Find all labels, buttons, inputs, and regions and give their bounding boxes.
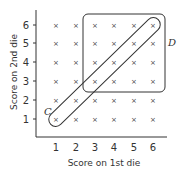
outcome-point-marker: × (73, 40, 79, 48)
outcome-point-marker: × (131, 97, 137, 105)
x-tick-label: 2 (73, 142, 79, 153)
x-tick-label: 6 (150, 142, 156, 153)
outcome-point-marker: × (53, 40, 59, 48)
outcome-point-marker: × (131, 22, 137, 30)
outcome-point-marker: × (131, 116, 137, 124)
outcome-point-marker: × (73, 22, 79, 30)
outcome-point-marker: × (111, 97, 117, 105)
outcome-point-marker: × (111, 59, 117, 67)
outcome-point-marker: × (53, 59, 59, 67)
y-tick-label: 6 (23, 20, 29, 31)
region-d-label: D (167, 37, 176, 48)
outcome-point-marker: × (53, 22, 59, 30)
outcome-points: ×××××××××××××××××××××××××××××××××××× (53, 22, 156, 124)
y-tick-label: 2 (23, 95, 29, 106)
y-tick-label: 4 (23, 57, 29, 68)
outcome-point-marker: × (92, 22, 98, 30)
outcome-point-marker: × (53, 78, 59, 86)
outcome-point-marker: × (111, 116, 117, 124)
y-axis-title: Score on 2nd die (9, 34, 19, 110)
outcome-point-marker: × (131, 59, 137, 67)
outcome-point-marker: × (53, 97, 59, 105)
outcome-point-marker: × (92, 78, 98, 86)
dice-outcome-diagram: 6 5 4 3 2 1 1 2 3 4 5 6 Score on 1st die… (0, 0, 184, 178)
region-c-label: C (44, 106, 52, 117)
outcome-point-marker: × (111, 22, 117, 30)
y-tick-label: 3 (23, 76, 29, 87)
y-tick-label: 5 (23, 38, 29, 49)
y-tick-label: 1 (23, 114, 29, 125)
outcome-point-marker: × (150, 59, 156, 67)
outcome-point-marker: × (53, 116, 59, 124)
outcome-point-marker: × (150, 97, 156, 105)
outcome-point-marker: × (150, 22, 156, 30)
x-tick-label: 4 (111, 142, 117, 153)
x-axis-title: Score on 1st die (68, 158, 141, 168)
outcome-point-marker: × (150, 116, 156, 124)
outcome-point-marker: × (73, 78, 79, 86)
outcome-point-marker: × (73, 97, 79, 105)
outcome-point-marker: × (92, 97, 98, 105)
x-tick-label: 1 (53, 142, 59, 153)
outcome-point-marker: × (111, 40, 117, 48)
outcome-point-marker: × (73, 116, 79, 124)
region-c-outline (46, 15, 163, 130)
outcome-point-marker: × (131, 78, 137, 86)
outcome-point-marker: × (111, 78, 117, 86)
outcome-point-marker: × (131, 40, 137, 48)
outcome-point-marker: × (150, 78, 156, 86)
outcome-point-marker: × (92, 116, 98, 124)
outcome-point-marker: × (92, 59, 98, 67)
x-tick-label: 5 (131, 142, 137, 153)
outcome-point-marker: × (92, 40, 98, 48)
outcome-point-marker: × (73, 59, 79, 67)
x-tick-label: 3 (92, 142, 98, 153)
outcome-point-marker: × (150, 40, 156, 48)
